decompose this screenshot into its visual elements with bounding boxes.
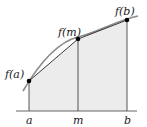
label-a: a: [26, 114, 33, 127]
label-m: m: [73, 114, 83, 127]
label-fb: f(b): [114, 5, 135, 18]
label-b: b: [124, 114, 131, 127]
point-fa: [27, 79, 32, 84]
point-fb: [125, 18, 130, 23]
label-fm: f(m): [57, 26, 81, 39]
label-fa: f(a): [4, 68, 24, 81]
trapezoid-rule-diagram: f(a) f(m) f(b) a m b: [0, 0, 147, 127]
